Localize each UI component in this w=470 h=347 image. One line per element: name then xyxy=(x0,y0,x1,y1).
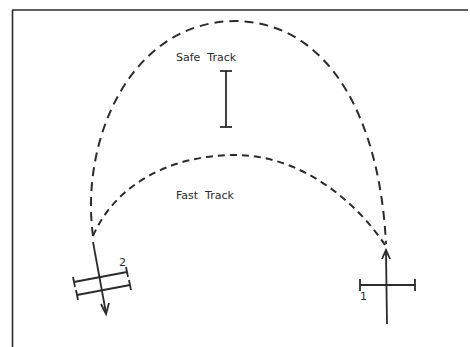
fast-track-curve xyxy=(93,155,385,245)
fast-track-label: Fast Track xyxy=(176,189,235,202)
vehicle-2-marker xyxy=(73,242,131,314)
vehicle-1-marker xyxy=(360,250,415,324)
track-diagram: Safe Track Fast Track 2 1 xyxy=(0,0,470,347)
vehicle-1-number: 1 xyxy=(360,290,367,303)
safe-track-scale-bar xyxy=(220,71,232,127)
safe-track-curve xyxy=(91,21,386,244)
vehicle-2-number: 2 xyxy=(119,256,126,269)
safe-track-label: Safe Track xyxy=(176,51,237,64)
